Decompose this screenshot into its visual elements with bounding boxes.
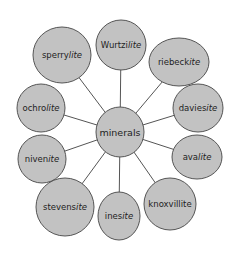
node-label: inesite bbox=[105, 211, 133, 221]
node-label: nivenite bbox=[25, 154, 59, 164]
node-label: sperrylite bbox=[42, 50, 82, 60]
node-label-suffix: ite bbox=[122, 211, 133, 221]
node-daviesite: daviesite bbox=[173, 84, 223, 132]
node-label-suffix: ite bbox=[189, 57, 200, 67]
node-label-suffix: lite bbox=[69, 50, 82, 60]
node-knoxvillite: knoxvillite bbox=[144, 178, 196, 230]
node-label: stevensite bbox=[43, 202, 87, 212]
node-wurtzilite: Wurtzilite bbox=[96, 20, 146, 70]
node-label: knoxvillite bbox=[148, 199, 191, 209]
node-avalite: avalite bbox=[172, 135, 222, 179]
node-sperrylite: sperrylite bbox=[33, 27, 91, 83]
node-label-base: ava bbox=[183, 152, 198, 162]
node-label-suffix: ite bbox=[206, 103, 217, 113]
mind-map-diagram: Wurtziliteriebeckitedaviesiteavaliteknox… bbox=[0, 0, 235, 255]
node-riebeckite: riebeckite bbox=[149, 38, 209, 86]
node-label-base: davies bbox=[179, 103, 207, 113]
node-label: Wurtzilite bbox=[101, 40, 141, 50]
node-label-suffix: lite bbox=[128, 40, 141, 50]
node-label-suffix: lite bbox=[198, 152, 211, 162]
node-label: ochrolite bbox=[22, 103, 59, 113]
node-label-suffix: ite bbox=[76, 202, 87, 212]
node-label: avalite bbox=[183, 152, 212, 162]
node-label-suffix: lite bbox=[46, 103, 59, 113]
node-label-base: niven bbox=[25, 154, 48, 164]
center-node: minerals bbox=[96, 107, 144, 157]
node-label-base: ines bbox=[105, 211, 123, 221]
node-nivenite: nivenite bbox=[18, 135, 66, 183]
node-stevensite: stevensite bbox=[36, 178, 94, 236]
node-label-base: riebeck bbox=[158, 57, 189, 67]
node-label: riebeckite bbox=[158, 57, 200, 67]
node-label-base: ochro bbox=[22, 103, 46, 113]
node-inesite: inesite bbox=[98, 192, 140, 240]
node-label: daviesite bbox=[179, 103, 218, 113]
node-label-suffix: ite bbox=[48, 154, 59, 164]
node-label-base: knoxvillite bbox=[148, 199, 191, 209]
node-label-base: sperry bbox=[42, 50, 69, 60]
node-ochrolite: ochrolite bbox=[17, 84, 65, 132]
center-node-label: minerals bbox=[99, 127, 140, 138]
node-label-base: stevens bbox=[43, 202, 77, 212]
node-label-base: Wurtzi bbox=[101, 40, 128, 50]
